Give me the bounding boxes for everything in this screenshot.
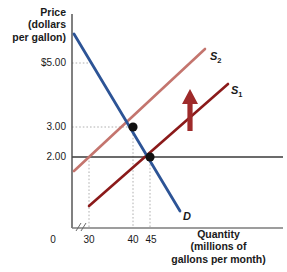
y-axis-title-line-1: Price <box>0 6 66 18</box>
x-tick-label-30: 30 <box>77 234 101 246</box>
supply-shift-arrow-icon <box>182 89 198 131</box>
supply-curve-s1 <box>89 84 228 206</box>
x-tick-label-0: 0 <box>41 234 65 246</box>
equilibrium-point-original <box>145 152 154 161</box>
y-tick-label-5: $5.00 <box>20 57 66 69</box>
x-axis-title-line-1: Quantity <box>150 228 287 240</box>
y-tick-label-3: 3.00 <box>20 121 66 133</box>
axis-break-mark <box>76 223 86 231</box>
supply-curve-s1-label: S1 <box>231 84 243 100</box>
supply-curve-s2-label: S2 <box>210 50 222 66</box>
supply-demand-chart: Price (dollars per gallon) Quantity (mil… <box>0 0 287 272</box>
x-tick-label-45: 45 <box>139 234 163 246</box>
x-axis-title-line-2: (millions of <box>150 240 287 252</box>
demand-curve-label: D <box>183 210 191 223</box>
y-tick-label-2: 2.00 <box>20 151 66 163</box>
demand-curve <box>74 34 180 211</box>
x-axis-title: Quantity (millions of gallons per month) <box>150 228 287 265</box>
supply-curve-s1-label-sub: 1 <box>238 90 242 99</box>
supply-curve-s2-label-sub: 2 <box>217 56 221 65</box>
equilibrium-point-new <box>128 122 137 131</box>
x-axis-title-line-3: gallons per month) <box>150 253 287 265</box>
y-axis-title-line-3: per gallon) <box>0 31 66 43</box>
y-axis-title: Price (dollars per gallon) <box>0 6 66 43</box>
y-axis-title-line-2: (dollars <box>0 18 66 30</box>
